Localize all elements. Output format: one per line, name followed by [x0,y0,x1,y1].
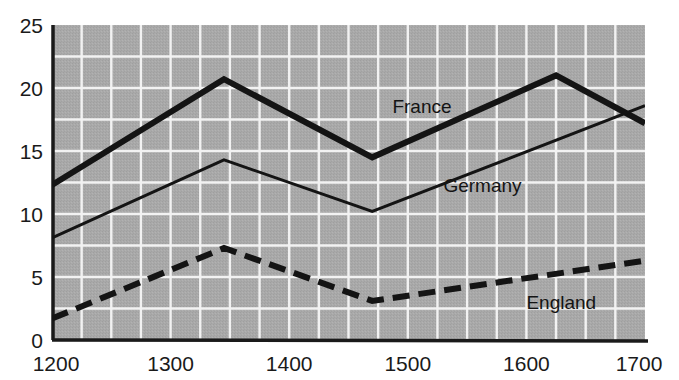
x-axis-line [52,340,648,341]
y-axis-tick-labels: 0510152025 [20,14,43,352]
chart-figure: 0510152025 120013001400150016001700 Fran… [0,0,679,380]
x-tick-label: 1500 [384,352,431,375]
y-tick-label: 0 [31,329,43,352]
y-tick-label: 10 [20,203,43,226]
x-tick-label: 1300 [147,352,194,375]
series-label-england: England [526,292,596,313]
x-tick-label: 1700 [616,352,663,375]
series-label-germany: Germany [443,175,522,196]
x-axis-tick-labels: 120013001400150016001700 [33,352,663,375]
x-tick-label: 1200 [33,352,80,375]
y-tick-label: 25 [20,14,43,37]
y-tick-label: 5 [31,266,43,289]
line-chart: 0510152025 120013001400150016001700 Fran… [0,0,679,380]
y-tick-label: 20 [20,77,43,100]
x-tick-label: 1600 [503,352,550,375]
x-tick-label: 1400 [266,352,313,375]
series-label-france: France [392,96,451,117]
y-tick-label: 15 [20,140,43,163]
